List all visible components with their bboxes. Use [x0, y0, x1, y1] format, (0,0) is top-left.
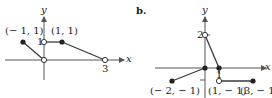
graph-b-part-label: b. — [136, 6, 146, 16]
point-neg2-neg1-filled — [169, 78, 174, 83]
graph-a-tick-x: 3 — [102, 64, 108, 74]
graph-b-segments — [172, 35, 253, 81]
point-3-0-open — [102, 57, 107, 62]
graph-a-point-label-1: (− 1, 1) — [5, 26, 43, 36]
graph-b-point-label-3: (3, − 1) — [240, 86, 272, 96]
graph-b-y-label: y — [202, 5, 208, 15]
point-3-neg1-filled — [250, 78, 255, 83]
graph-a-x-label: x — [126, 54, 132, 64]
graph-b-point-label-1: (− 2, − 1) — [150, 86, 200, 96]
point-origin-filled — [202, 65, 207, 70]
graph-a-segments — [23, 42, 105, 60]
point-1-1-filled — [59, 39, 64, 44]
point-neg1-1-filled — [20, 39, 25, 44]
graph-a-point-label-2: (1, 1) — [51, 26, 78, 36]
graph-a-y-label: y — [41, 5, 47, 15]
graph-b-points — [169, 32, 255, 83]
graph-b-x-label: x — [265, 62, 271, 72]
point-origin-open — [41, 57, 46, 62]
graph-b-tick-y: 2 — [197, 30, 203, 40]
graph-b-tick-x: 1 — [216, 70, 222, 80]
graph-a-tick-y: 1 — [37, 37, 43, 47]
